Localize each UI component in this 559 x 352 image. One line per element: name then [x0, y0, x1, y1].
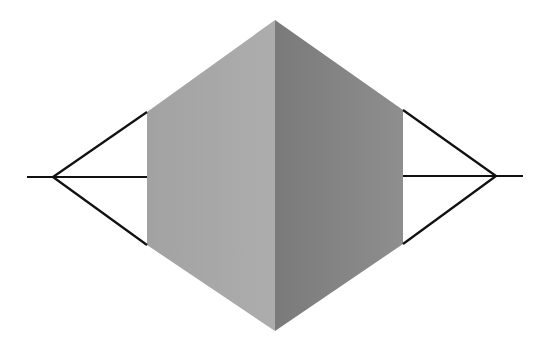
- left-perspective-lines: [27, 112, 147, 245]
- cube-right-face: [275, 20, 403, 331]
- right-upper-convergence-line: [403, 110, 496, 176]
- left-lower-convergence-line: [53, 177, 147, 245]
- cube-left-face: [147, 20, 275, 331]
- perspective-cube-diagram: [0, 0, 559, 352]
- right-perspective-lines: [403, 110, 523, 244]
- left-upper-convergence-line: [53, 112, 147, 177]
- right-lower-convergence-line: [403, 176, 496, 244]
